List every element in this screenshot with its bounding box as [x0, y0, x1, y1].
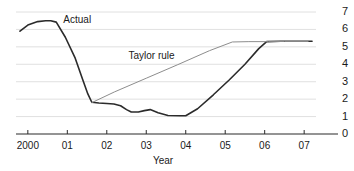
y-axis-tick-label: 7: [342, 6, 348, 17]
x-axis-tick-label: 02: [90, 141, 124, 151]
x-axis-title: Year: [0, 156, 326, 166]
y-axis-tick-label: 1: [342, 111, 348, 122]
y-axis-tick-label: 4: [342, 58, 348, 69]
series-label-taylor-rule: Taylor rule: [129, 51, 175, 61]
x-axis-tick-label: 06: [248, 141, 282, 151]
x-axis-tick-label: 2000: [11, 141, 45, 151]
y-axis-tick-label: 3: [342, 76, 348, 87]
x-axis-tick-label: 04: [169, 141, 203, 151]
x-axis-tick-label: 07: [287, 141, 321, 151]
y-axis-tick-label: 0: [342, 128, 348, 139]
y-axis-tick-label: 2: [342, 93, 348, 104]
x-axis-tick-label: 01: [50, 141, 84, 151]
x-axis-tick-label: 05: [208, 141, 242, 151]
y-axis-tick-label: 6: [342, 23, 348, 34]
series-label-actual: Actual: [63, 15, 91, 25]
y-axis-tick-label: 5: [342, 41, 348, 52]
x-axis-tick-label: 03: [129, 141, 163, 151]
chart-container: 76543210 200001020304050607 ActualTaylor…: [0, 0, 354, 171]
